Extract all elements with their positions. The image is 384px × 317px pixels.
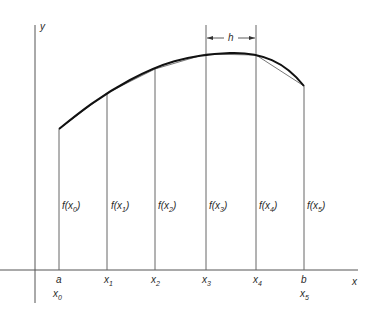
trapezoidal-rule-diagram: y x h f(x0) f(x1) f(x2) f(x3) f(x4) f(x5… (0, 0, 384, 317)
function-curve (59, 53, 304, 129)
a-label: a (56, 274, 62, 285)
f-label-1: f(x1) (111, 200, 129, 213)
step-h-label: h (228, 32, 234, 43)
x4-label: x4 (252, 274, 262, 287)
x1-label: x1 (103, 274, 113, 287)
x5-label: x5 (299, 288, 309, 301)
x2-label: x2 (150, 274, 160, 287)
h-arrowhead-left (207, 36, 213, 40)
x0-label: x0 (52, 288, 62, 301)
h-arrowhead-right (249, 36, 255, 40)
f-label-2: f(x2) (158, 200, 176, 213)
f-label-0: f(x0) (62, 200, 80, 213)
f-label-5: f(x5) (307, 200, 325, 213)
f-label-4: f(x4) (259, 200, 277, 213)
trapezoid-chords (59, 54, 304, 129)
f-label-3: f(x3) (209, 200, 227, 213)
x-axis-label: x (351, 276, 358, 287)
y-axis-label: y (39, 21, 46, 32)
x3-label: x3 (201, 274, 211, 287)
b-label: b (301, 274, 307, 285)
